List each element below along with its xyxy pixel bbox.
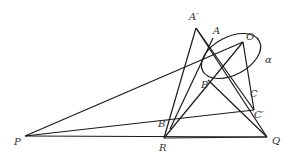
label-b-prime: B′ [157, 118, 168, 129]
line-o-cprime [243, 42, 254, 110]
label-r: R [158, 142, 167, 153]
label-b: B [200, 79, 208, 90]
line-p-o [25, 42, 243, 136]
label-c: C [250, 88, 258, 99]
label-q: Q [272, 135, 280, 146]
label-o: O [246, 31, 254, 42]
label-c-prime: C′ [254, 109, 265, 120]
label-alpha: α [265, 54, 272, 65]
label-a: A [212, 25, 220, 36]
label-p: P [13, 136, 21, 147]
label-a-prime: A′ [188, 11, 199, 22]
line-p-cprime [25, 110, 254, 136]
geometry-diagram: A′ A O α C C′ B B′ R Q P [0, 0, 291, 160]
